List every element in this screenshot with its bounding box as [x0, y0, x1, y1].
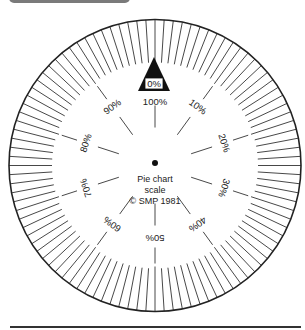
tick-mark [137, 268, 142, 311]
tick-mark [128, 267, 136, 309]
tick-mark [10, 147, 53, 152]
tick-mark [161, 268, 164, 311]
tick-mark [10, 178, 53, 183]
tick-mark [251, 112, 291, 128]
tick-mark [245, 95, 283, 116]
tick-mark [256, 138, 298, 146]
major-marker-line [97, 232, 106, 245]
major-marker-line [98, 147, 119, 154]
tick-mark [101, 30, 117, 70]
major-marker-line [233, 191, 248, 196]
percent-label: 10% [187, 96, 209, 116]
tick-mark [9, 156, 52, 159]
tick-mark [251, 197, 294, 211]
major-marker-line [62, 135, 77, 140]
tick-mark [9, 172, 52, 175]
tick-mark [146, 20, 149, 63]
tick-mark [199, 33, 217, 72]
tick-mark [27, 95, 65, 116]
tick-mark [23, 103, 62, 121]
tick-mark [27, 215, 65, 236]
zero-label: 0% [147, 78, 161, 89]
tick-mark [12, 185, 54, 193]
tick-mark [251, 120, 294, 134]
major-marker-line [203, 232, 212, 245]
major-marker-line [98, 177, 119, 184]
tick-mark [128, 22, 136, 64]
zero-marker: 0% [138, 57, 170, 91]
major-marker-line [191, 147, 212, 154]
tick-mark [258, 156, 301, 159]
bottom-rule [10, 326, 301, 328]
percent-label: 90% [101, 96, 123, 116]
tick-mark [16, 197, 59, 211]
tick-mark [85, 38, 106, 76]
percent-label: 100% [143, 96, 168, 107]
percent-label: 80% [77, 132, 94, 154]
percent-label: 30% [216, 177, 233, 199]
tick-mark [19, 112, 59, 128]
major-marker-line [120, 117, 133, 135]
tick-mark [101, 261, 117, 301]
tick-mark [257, 178, 300, 183]
major-marker-line [177, 117, 190, 135]
tick-mark [12, 138, 54, 146]
tick-mark [193, 261, 209, 301]
tick-mark [85, 256, 106, 294]
tick-mark [174, 22, 182, 64]
tick-mark [256, 185, 298, 193]
tick-mark [199, 259, 217, 298]
tick-mark [137, 21, 142, 64]
major-marker-line [62, 191, 77, 196]
caption-line-3: © SMP 1981 [130, 196, 181, 206]
caption-line-1: Pie chart [137, 174, 173, 184]
tick-mark [258, 172, 301, 175]
tick-mark [193, 30, 209, 70]
tick-mark [174, 267, 182, 309]
percent-label: 20% [216, 132, 233, 154]
percent-label: 50% [145, 233, 165, 244]
tick-mark [161, 20, 164, 63]
caption-line-2: scale [144, 185, 165, 195]
tick-mark [248, 103, 287, 121]
major-marker-line [97, 86, 106, 99]
major-marker-line [233, 135, 248, 140]
percent-label: 60% [101, 214, 123, 234]
pie-chart-scale: 100%10%20%30%40%50%60%70%80%90% 0% Pie c… [0, 0, 305, 330]
tick-mark [93, 33, 111, 72]
tick-mark [251, 203, 291, 219]
percent-label: 70% [77, 177, 94, 199]
center-dot [152, 160, 158, 166]
tick-mark [168, 21, 173, 64]
major-marker-line [191, 177, 212, 184]
percent-label: 40% [187, 215, 209, 235]
tick-mark [205, 256, 226, 294]
major-marker-line [203, 86, 212, 99]
tick-mark [257, 147, 300, 152]
tick-mark [19, 203, 59, 219]
tick-mark [93, 259, 111, 298]
tick-mark [23, 209, 62, 227]
tick-mark [146, 268, 149, 311]
tick-mark [248, 209, 287, 227]
tick-mark [245, 215, 283, 236]
tick-mark [205, 38, 226, 76]
tick-mark [168, 268, 173, 311]
tick-mark [16, 120, 59, 134]
